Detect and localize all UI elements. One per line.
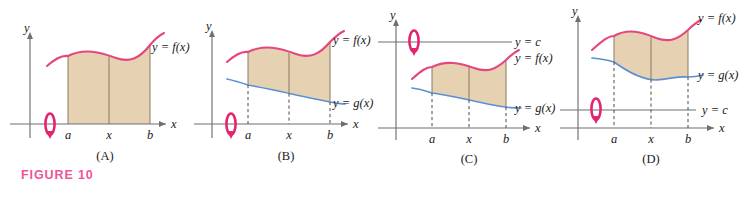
panel-c-label-c: y = c [513, 35, 541, 49]
panel-a-y-axis-label: y [22, 21, 30, 35]
panel-b-tick-b: b [327, 128, 333, 142]
panel-a-tick-b: b [147, 128, 153, 142]
panel-c-label-g: y = g(x) [513, 101, 555, 115]
panel-a-tick-x: x [105, 128, 112, 142]
panel-b-x-axis-arrowhead [341, 121, 348, 127]
panel-b: y = f(x) y = g(x) y x a x b (B) [186, 0, 376, 175]
panel-b-tick-x: x [285, 128, 292, 142]
panel-b-tick-a: a [245, 128, 251, 142]
panel-d-tick-x: x [647, 132, 654, 146]
panel-b-x-axis-label: x [352, 117, 359, 131]
panel-d-label-c: y = c [700, 103, 728, 117]
panel-b-y-axis-label: y [204, 19, 212, 33]
panel-c-letter: (C) [461, 152, 478, 166]
panel-c-tick-a: a [429, 132, 435, 146]
panel-c-tick-b: b [503, 132, 509, 146]
panel-d-label-f: y = f(x) [696, 11, 736, 25]
panel-d-tick-a: a [611, 132, 617, 146]
panel-a-label-f: y = f(x) [150, 40, 190, 54]
panel-b-label-g: y = g(x) [331, 96, 373, 110]
panel-b-letter: (B) [278, 149, 295, 163]
panel-c-x-axis-arrowhead [523, 125, 530, 131]
panel-a-letter: (A) [96, 149, 113, 163]
panel-c: y = c y = f(x) y = g(x) y x a x b (C) [372, 0, 562, 175]
figure-caption: FIGURE 10 [21, 168, 94, 182]
panel-b-label-f: y = f(x) [331, 33, 371, 47]
panel-a-x-axis-label: x [170, 117, 177, 131]
panel-a-x-axis-arrowhead [159, 121, 166, 127]
panel-b-rotation-arrow [226, 114, 235, 140]
panel-d-x-axis-label: x [718, 121, 725, 135]
panel-c-rotation-arrow [409, 31, 418, 57]
panel-a-tick-a: a [65, 128, 71, 142]
panel-c-y-axis-label: y [388, 8, 396, 22]
panel-a-rotation-arrow [45, 114, 54, 140]
panel-d-tick-b: b [685, 132, 691, 146]
panel-d-y-axis-label: y [570, 4, 578, 18]
panel-c-tick-x: x [465, 132, 472, 146]
panel-d: y = f(x) y = g(x) y = c y x a x b (D) [556, 0, 746, 175]
panel-d-label-g: y = g(x) [696, 68, 738, 82]
panel-d-x-axis-arrowhead [707, 125, 714, 131]
panel-d-letter: (D) [642, 152, 659, 166]
panel-a: y = f(x) y x a x b (A) [0, 0, 190, 175]
panel-c-label-f: y = f(x) [513, 51, 553, 65]
figure-10-illustration: y = f(x) y x a x b (A) y = f(x) [0, 0, 746, 215]
panel-c-x-axis-label: x [534, 121, 541, 135]
panel-d-rotation-arrow [591, 99, 600, 125]
